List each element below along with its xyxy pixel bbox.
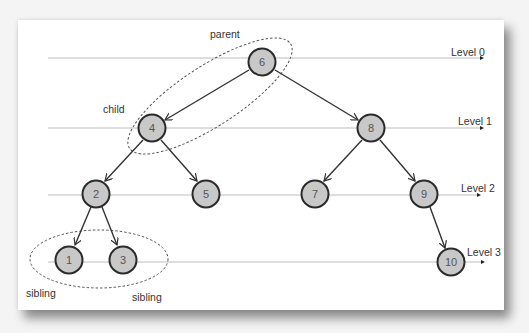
node-label: 1	[66, 254, 72, 266]
node-label: 4	[149, 122, 155, 134]
edge-9-10	[430, 207, 445, 248]
parent-label: parent	[210, 28, 240, 40]
tree-diagram: Level 0 Level 1 Level 2 Level 3 6 4 8 2 …	[0, 0, 529, 333]
node-2: 2	[83, 181, 110, 208]
node-7: 7	[302, 181, 329, 208]
node-label: 6	[259, 56, 265, 68]
node-5: 5	[193, 181, 220, 208]
node-label: 9	[421, 188, 427, 200]
sibling-label-left: sibling	[26, 287, 56, 299]
level-label-3: Level 3	[467, 246, 501, 258]
node-label: 8	[368, 122, 374, 134]
edges	[75, 70, 445, 248]
level-label-2: Level 2	[461, 182, 495, 194]
edge-4-2	[105, 140, 143, 181]
node-label: 5	[203, 188, 209, 200]
level-label-1: Level 1	[458, 115, 492, 127]
level-label-0: Level 0	[451, 46, 485, 58]
node-9: 9	[411, 181, 438, 208]
node-1: 1	[56, 247, 83, 274]
sibling-label-right: sibling	[132, 291, 162, 303]
edge-2-3	[102, 207, 117, 245]
edge-8-7	[324, 140, 362, 181]
edge-6-4	[165, 70, 249, 120]
child-label: child	[103, 103, 125, 115]
node-4: 4	[139, 115, 166, 142]
node-6: 6	[249, 49, 276, 76]
parent-child-ellipse	[113, 19, 307, 174]
edge-6-8	[275, 70, 358, 120]
edge-8-9	[380, 140, 415, 181]
node-3: 3	[110, 247, 137, 274]
node-8: 8	[358, 115, 385, 142]
node-10: 10	[438, 249, 465, 276]
sibling-ellipse	[30, 230, 168, 288]
node-label: 2	[93, 188, 99, 200]
node-label: 3	[120, 254, 126, 266]
edge-2-1	[75, 207, 91, 245]
node-label: 7	[312, 188, 318, 200]
level-lines	[48, 58, 483, 262]
node-label: 10	[445, 256, 457, 268]
